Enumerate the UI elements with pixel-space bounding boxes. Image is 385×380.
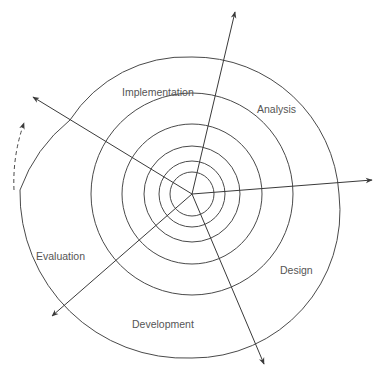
axis-up-arrow [192,12,235,194]
axis-up-left-arrow [33,97,192,194]
label-evaluation: Evaluation [36,250,85,262]
label-development: Development [132,318,194,330]
axis-right-arrow [192,180,372,194]
label-implementation: Implementation [122,86,194,98]
outer-spiral-tail [20,120,70,190]
label-design: Design [280,264,313,276]
label-analysis: Analysis [257,103,296,115]
axis-down-right-arrow [192,194,264,364]
continuation-dashed-arrow [14,123,24,190]
